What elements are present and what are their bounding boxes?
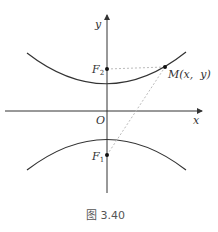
origin-label: O: [96, 114, 105, 127]
y-axis-label: y: [94, 18, 102, 31]
focus-F2-label: F2: [91, 63, 104, 77]
x-axis-label: x: [193, 114, 200, 127]
point-M-dot: [163, 65, 167, 69]
hyperbola-diagram: y x O F2 F1 M(x, y) 图 3.40: [0, 0, 218, 232]
focus-F2-dot: [105, 67, 109, 71]
focus-F1-label: F1: [91, 150, 104, 164]
figure-caption: 图 3.40: [86, 209, 125, 222]
dashed-F2-M: [107, 67, 165, 69]
point-M-label: M(x, y): [167, 68, 211, 81]
focus-F1-dot: [105, 153, 109, 157]
